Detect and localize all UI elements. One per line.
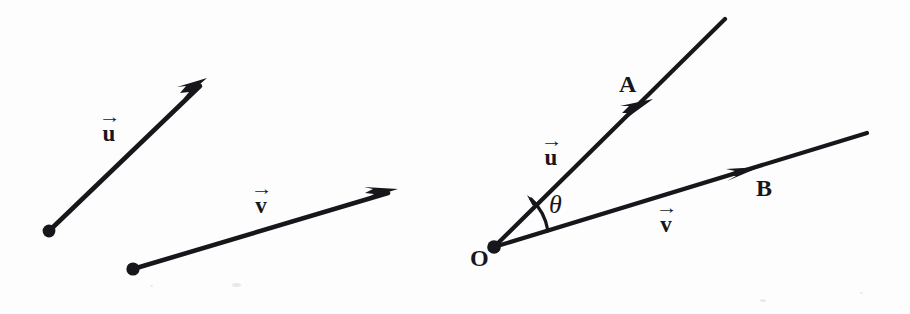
right-vector-u-label: → u [542, 136, 560, 168]
vector-letter: v [657, 215, 675, 235]
right-vector-v-arrowhead [726, 167, 760, 181]
point-label-O: O [470, 246, 489, 270]
left-vector-v-tail-dot [126, 262, 139, 275]
vector-figure: → u → v → u → v O A B θ [0, 0, 910, 314]
angle-label-theta: θ [549, 192, 562, 218]
point-label-B: B [756, 176, 772, 200]
right-vector-v-label: → v [657, 203, 675, 235]
point-label-A: A [619, 72, 636, 96]
left-vector-u-label: → u [100, 112, 118, 144]
left-panel [43, 78, 398, 276]
vector-letter: u [100, 124, 118, 144]
left-vector-u-shaft [49, 86, 200, 231]
left-vector-v-label: → v [252, 184, 270, 216]
vector-arrow-accent-icon: → [656, 203, 677, 213]
vector-letter: u [542, 148, 560, 168]
vector-arrow-accent-icon: → [541, 136, 562, 146]
vector-arrow-accent-icon: → [99, 112, 120, 122]
vector-letter: v [252, 196, 270, 216]
left-vector-u-tail-dot [43, 225, 56, 238]
right-origin-dot [487, 240, 501, 254]
vector-arrow-accent-icon: → [251, 184, 272, 194]
diagram-canvas [0, 0, 910, 314]
